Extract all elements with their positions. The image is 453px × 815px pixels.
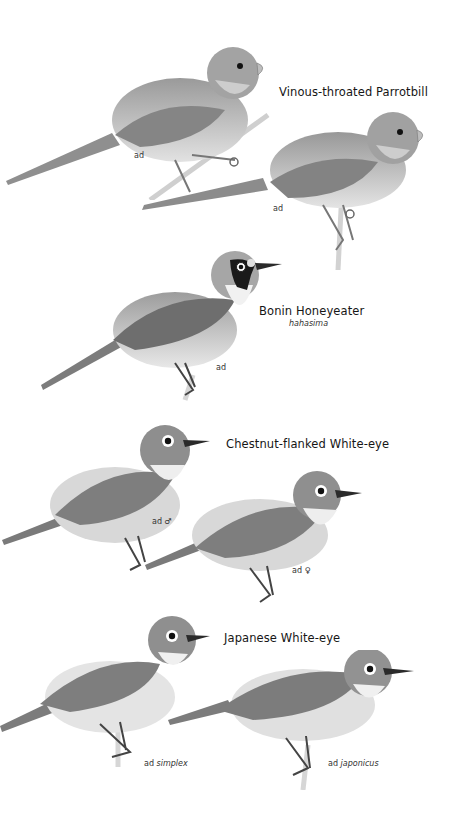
subspecies-label-japonicus: japonicus xyxy=(341,759,379,768)
species-title-honeyeater: Bonin Honeyeater xyxy=(259,304,364,318)
figure-label-chestnut-flanked-female: ad ♀ xyxy=(292,566,310,575)
illustration-plate: Vinous-throated Parrotbill ad ad Bonin H… xyxy=(0,0,453,815)
age-label: ad xyxy=(292,566,302,575)
figure-label-japanese-japonicus: ad japonicus xyxy=(328,759,379,768)
figure-label-honeyeater: ad xyxy=(216,363,226,372)
male-symbol-icon: ♂ xyxy=(165,517,172,526)
subspecies-label-hahasima: hahasima xyxy=(289,319,328,328)
age-label: ad xyxy=(144,759,154,768)
figure-label-japanese-simplex: ad simplex xyxy=(144,759,188,768)
japanese-white-eye-japonicus-illustration xyxy=(168,650,418,790)
age-label: ad xyxy=(328,759,338,768)
species-title-chestnut-flanked-white-eye: Chestnut-flanked White-eye xyxy=(226,437,389,451)
figure-label-parrotbill-1: ad xyxy=(134,151,144,160)
chestnut-flanked-white-eye-female-illustration xyxy=(145,470,365,610)
figure-label-chestnut-flanked-male: ad ♂ xyxy=(152,517,172,526)
honeyeater-illustration xyxy=(35,245,285,405)
figure-label-parrotbill-2: ad xyxy=(273,204,283,213)
species-title-japanese-white-eye: Japanese White-eye xyxy=(224,631,340,645)
species-title-parrotbill: Vinous-throated Parrotbill xyxy=(279,85,428,99)
subspecies-label-simplex: simplex xyxy=(157,759,188,768)
female-symbol-icon: ♀ xyxy=(305,566,311,575)
age-label: ad xyxy=(152,517,162,526)
